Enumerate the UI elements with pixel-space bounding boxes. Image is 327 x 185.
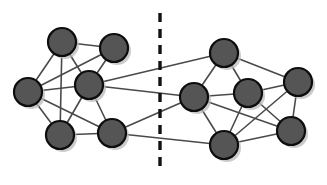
graph-node-r4 (284, 68, 312, 96)
graph-node-l5 (46, 121, 74, 149)
graph-canvas (0, 0, 327, 185)
graph-node-r2 (180, 83, 208, 111)
graph-node-l6 (98, 119, 126, 147)
graph-node-r6 (277, 117, 305, 145)
graph-node-r3 (234, 79, 262, 107)
graph-diagram (0, 0, 327, 185)
graph-node-l4 (75, 71, 103, 99)
graph-node-l2 (100, 34, 128, 62)
graph-node-l1 (48, 28, 76, 56)
graph-node-r1 (210, 39, 238, 67)
graph-node-l3 (14, 78, 42, 106)
graph-node-r5 (210, 131, 238, 159)
